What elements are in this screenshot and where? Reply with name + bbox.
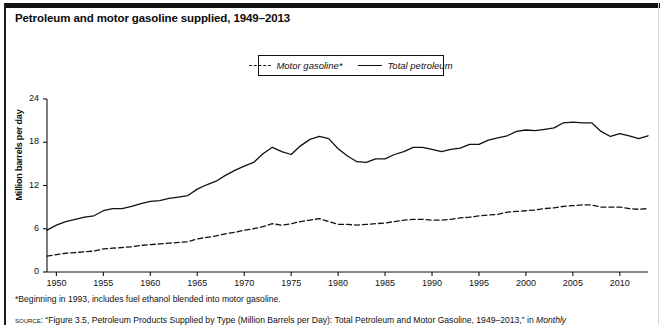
y-tick-label: 6 [17, 223, 39, 233]
y-tick-label: 18 [17, 136, 39, 146]
x-tick-label: 1975 [271, 278, 311, 288]
x-tick-label: 1965 [177, 278, 217, 288]
figure-source: source: “Figure 3.5, Petroleum Products … [15, 315, 566, 325]
x-tick-label: 1960 [130, 278, 170, 288]
x-tick-label: 1955 [83, 278, 123, 288]
source-prefix: source: [15, 316, 43, 325]
series-line-total-petroleum [47, 122, 648, 230]
figure-footnote: *Beginning in 1993, includes fuel ethano… [15, 294, 281, 304]
series-line-motor-gasoline [47, 205, 648, 256]
y-tick-label: 12 [17, 180, 39, 190]
chart-plot-area: Million barrels per day 06121824 1950195… [0, 0, 664, 328]
x-tick-label: 1970 [224, 278, 264, 288]
figure-page: Petroleum and motor gasoline supplied, 1… [0, 0, 664, 328]
x-tick-label: 1980 [318, 278, 358, 288]
x-tick-label: 2010 [600, 278, 640, 288]
x-tick-label: 1950 [36, 278, 76, 288]
x-tick-label: 1990 [412, 278, 452, 288]
x-tick-label: 1995 [459, 278, 499, 288]
source-text: “Figure 3.5, Petroleum Products Supplied… [43, 315, 536, 325]
series-layer [47, 122, 648, 256]
y-tick-label: 0 [17, 266, 39, 276]
x-tick-label: 1985 [365, 278, 405, 288]
y-tick-label: 24 [17, 93, 39, 103]
y-axis-title: Million barrels per day [14, 100, 24, 210]
x-tick-label: 2000 [506, 278, 546, 288]
source-italic: Monthly [536, 315, 566, 325]
x-tick-label: 2005 [553, 278, 593, 288]
